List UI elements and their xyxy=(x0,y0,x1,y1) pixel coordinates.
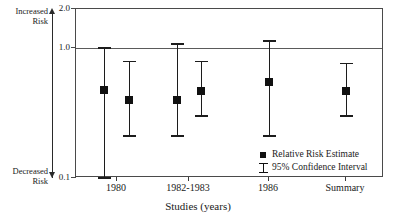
x-tick-label-summary: Summary xyxy=(326,182,365,194)
confidence-interval-cap-lower xyxy=(123,135,136,137)
x-tick-mark xyxy=(268,177,269,181)
x-tick-mark xyxy=(188,177,189,181)
confidence-interval-cap-upper xyxy=(340,63,353,65)
confidence-interval-cap-lower xyxy=(195,115,208,117)
decreased-risk-label-line1: Decreased xyxy=(0,166,48,176)
confidence-interval-cap-upper xyxy=(98,47,111,49)
relative-risk-marker xyxy=(265,78,273,86)
y-tick-label: 1.0 xyxy=(48,43,70,52)
confidence-interval-cap-upper xyxy=(171,43,184,45)
x-tick-label-1986: 1986 xyxy=(258,182,278,194)
confidence-interval-cap-upper xyxy=(263,40,276,42)
x-axis-title: Studies (years) xyxy=(0,200,396,212)
relative-risk-marker xyxy=(197,87,205,95)
increased-risk-label: Increased Risk xyxy=(0,6,48,26)
decreased-risk-label: Decreased Risk xyxy=(0,166,48,186)
increased-risk-label-line2: Risk xyxy=(0,16,48,26)
y-tick-label: 0.1 xyxy=(48,173,70,182)
risk-direction-axis xyxy=(52,12,53,178)
relative-risk-marker xyxy=(125,96,133,104)
square-marker-icon xyxy=(260,152,266,158)
relative-risk-marker xyxy=(173,96,181,104)
decreased-risk-label-line2: Risk xyxy=(0,176,48,186)
confidence-interval-cap-lower xyxy=(98,177,111,179)
confidence-interval-line xyxy=(177,44,179,136)
y-tick-label: 2.0 xyxy=(48,4,70,13)
x-tick-label-1980: 1980 xyxy=(106,182,126,194)
y-tick-mark xyxy=(71,177,76,178)
x-tick-mark xyxy=(345,177,346,181)
confidence-interval-cap-lower xyxy=(340,115,353,117)
confidence-interval-cap-upper xyxy=(123,61,136,63)
confidence-interval-cap-lower xyxy=(263,135,276,137)
i-bar-marker-icon xyxy=(259,163,268,173)
relative-risk-marker xyxy=(100,86,108,94)
increased-risk-label-line1: Increased xyxy=(0,6,48,16)
legend-label-estimate: Relative Risk Estimate xyxy=(272,148,359,161)
x-tick-label-1982-1983: 1982-1983 xyxy=(166,182,209,194)
x-tick-mark xyxy=(116,177,117,181)
confidence-interval-line xyxy=(269,41,271,136)
plot-area: Relative Risk Estimate 95% Confidence In… xyxy=(75,8,383,177)
forest-plot-figure: Increased Risk Decreased Risk 2.01.00.1 … xyxy=(0,0,396,222)
confidence-interval-line xyxy=(104,48,106,178)
relative-risk-marker xyxy=(342,87,350,95)
confidence-interval-cap-lower xyxy=(171,135,184,137)
confidence-interval-cap-upper xyxy=(195,61,208,63)
reference-line-1 xyxy=(76,48,382,49)
legend-label-confidence-interval: 95% Confidence Interval xyxy=(272,161,368,174)
